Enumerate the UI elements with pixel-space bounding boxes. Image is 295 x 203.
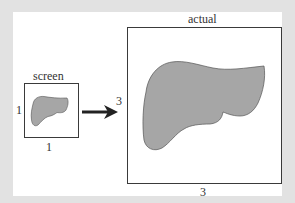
- small-liver-shape: [31, 96, 68, 125]
- arrow-right-icon: [82, 105, 118, 119]
- large-liver-shape: [143, 62, 265, 150]
